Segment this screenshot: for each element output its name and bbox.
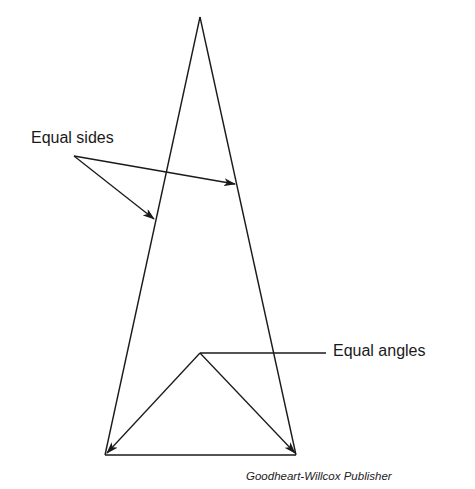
figure-caption: Goodheart-Willcox Publisher (246, 470, 392, 482)
diagram-canvas (0, 0, 475, 489)
right-side (200, 17, 296, 455)
equal-sides-pointers (74, 156, 235, 219)
left-side (105, 17, 200, 455)
isosceles-triangle (105, 17, 296, 455)
arrow-to-right-side (74, 156, 235, 184)
arrow-to-right-angle (200, 353, 295, 453)
arrow-to-left-side (74, 156, 154, 219)
arrow-to-left-angle (107, 353, 200, 453)
equal-angles-pointers (107, 353, 326, 453)
equal-sides-label: Equal sides (31, 129, 114, 147)
equal-angles-label: Equal angles (333, 342, 426, 360)
